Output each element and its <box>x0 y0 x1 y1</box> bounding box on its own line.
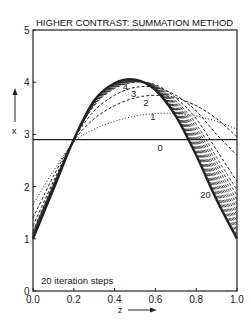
x-tick-label: 0.6 <box>148 294 162 305</box>
iteration-annotation: 20 iteration steps <box>41 275 114 286</box>
curve-label-20: 20 <box>200 189 211 200</box>
y-tick-label: 2 <box>24 182 30 193</box>
x-axis-label: z <box>118 305 123 315</box>
y-tick-label: 4 <box>24 77 30 88</box>
curve-label-2: 2 <box>143 97 148 108</box>
arrowhead-up-icon <box>13 88 18 95</box>
chart-title: HIGHER CONTRAST: SUMMATION METHOD <box>36 17 233 28</box>
intermediate-iteration-curve <box>33 80 237 236</box>
curve-label-0: 0 <box>157 142 162 153</box>
y-axis-label: x <box>12 126 17 136</box>
intermediate-iteration-curve <box>33 80 237 239</box>
curve-20 <box>33 79 237 239</box>
x-tick-label: 0.4 <box>108 294 122 305</box>
x-tick-label: 1.0 <box>230 294 244 305</box>
x-axis-label-group: z <box>118 305 157 315</box>
chart: 012345 0.00.20.40.60.81.0 0123420 HIGHER… <box>0 0 251 325</box>
intermediate-iteration-curve <box>33 80 237 237</box>
x-tick-label: 0.0 <box>26 294 40 305</box>
arrowhead-right-icon <box>150 308 157 313</box>
intermediate-iteration-curve <box>33 79 237 238</box>
y-axis: 012345 <box>24 25 36 297</box>
curve-label-4: 4 <box>123 81 128 92</box>
intermediate-iteration-curve <box>33 80 237 237</box>
y-tick-label: 5 <box>24 25 30 36</box>
curve-labels: 0123420 <box>123 81 211 201</box>
y-axis-label-group: x <box>12 88 18 136</box>
curve-label-1: 1 <box>150 111 155 122</box>
intermediate-iteration-curve <box>33 80 237 238</box>
y-tick-label: 1 <box>24 234 30 245</box>
curves <box>33 79 237 239</box>
x-tick-label: 0.2 <box>67 294 81 305</box>
curve-label-3: 3 <box>131 88 136 99</box>
y-tick-label: 3 <box>24 129 30 140</box>
x-tick-label: 0.8 <box>189 294 203 305</box>
